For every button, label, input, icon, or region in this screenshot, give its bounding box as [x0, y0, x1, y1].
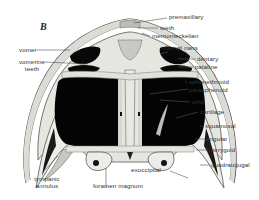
- label-quadratojugal: quadratojugal: [211, 162, 250, 168]
- label-internal-naris: internal naris: [161, 45, 198, 51]
- label-mentomeckelian: mentomeckelian: [152, 33, 198, 39]
- label-teeth: teeth: [160, 25, 174, 31]
- label-premaxillary: premaxillary: [169, 14, 204, 20]
- small-foramen-right: [138, 112, 140, 116]
- label-parasphenoid: parasphenoid: [189, 87, 228, 93]
- small-foramen-left: [120, 112, 122, 116]
- label-dentary: dentary: [197, 56, 218, 62]
- posterior-crossbar: [66, 146, 194, 152]
- label-vomerine-teeth: teeth: [18, 66, 46, 72]
- orbit-left: [55, 75, 120, 149]
- label-squamosal: squamosal: [205, 123, 236, 129]
- label-cartilage: cartilage: [200, 109, 224, 115]
- label-pterygoid: pterygoid: [209, 147, 235, 153]
- label-vomer: vomer: [19, 47, 37, 53]
- skull-diagram: [0, 0, 259, 200]
- premaxillary-tip: [120, 21, 140, 29]
- label-angular: angular: [206, 136, 227, 142]
- panel-letter: B: [40, 21, 47, 32]
- label-orbit: orbit: [192, 99, 205, 105]
- label-exoccipital: exoccipital: [131, 167, 161, 173]
- label-palatine: palatine: [195, 64, 217, 70]
- exoccipital-left: [86, 152, 112, 171]
- label-foramen-magnum: foramen magnum: [93, 183, 143, 189]
- exoccipital-left-hole: [93, 160, 99, 166]
- exoccipital-right-hole: [161, 160, 167, 166]
- label-sphenethmoid: sphenethmoid: [189, 79, 229, 85]
- parasphenoid: [125, 70, 135, 150]
- label-annulus: annulus: [32, 183, 62, 189]
